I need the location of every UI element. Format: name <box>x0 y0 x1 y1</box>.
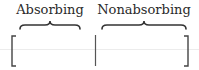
absorbing-brace-icon <box>20 21 80 29</box>
matrix-diagram <box>0 0 199 70</box>
left-bracket-icon <box>12 36 16 66</box>
nonabsorbing-brace-icon <box>102 21 186 29</box>
right-bracket-icon <box>184 36 188 66</box>
